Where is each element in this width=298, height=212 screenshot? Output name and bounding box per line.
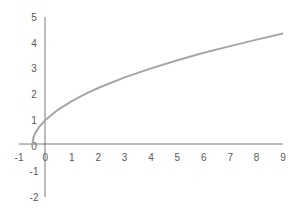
y-tick-labels: 543210-1-2 [30,12,39,203]
x-tick-label: -1 [15,152,24,163]
y-tick-label: 1 [31,115,37,126]
x-tick-label: 5 [175,152,181,163]
x-tick-label: 1 [69,152,75,163]
y-tick-label: 4 [31,38,37,49]
x-tick-label: 7 [227,152,233,163]
data-curve [32,34,283,146]
axes [19,17,283,197]
chart: -10123456789 543210-1-2 [0,0,298,212]
x-tick-label: 0 [43,152,49,163]
y-tick-label: 2 [31,89,37,100]
x-tick-label: 3 [122,152,128,163]
x-tick-label: 8 [254,152,260,163]
x-tick-labels: -10123456789 [15,152,287,163]
y-tick-label: -1 [30,166,39,177]
y-tick-label: -2 [30,192,39,203]
y-tick-label: 5 [31,12,37,23]
x-tick-label: 6 [201,152,207,163]
x-tick-label: 2 [95,152,101,163]
x-tick-label: 9 [280,152,286,163]
y-tick-label: 3 [31,63,37,74]
x-tick-label: 4 [148,152,154,163]
